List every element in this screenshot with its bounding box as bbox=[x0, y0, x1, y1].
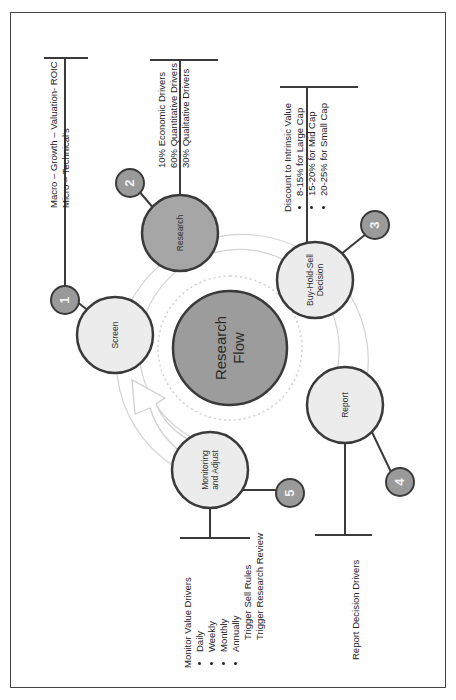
node-screen-label: Screen bbox=[95, 297, 135, 373]
monitoring-bullet: Daily bbox=[194, 533, 206, 652]
monitoring-trailing-1: Trigger Sell Rules bbox=[242, 533, 254, 668]
node-decision-label: Buy-Hold-Sell Decision bbox=[295, 242, 335, 318]
decision-bullet: 8-15% for Large Cap bbox=[294, 103, 306, 196]
research-line-2: 60% Quantitative Drivers bbox=[168, 63, 180, 168]
node-report-label: Report bbox=[325, 367, 365, 443]
annotation-research: 10% Economic Drivers 60% Quantitative Dr… bbox=[156, 63, 192, 168]
decision-bullets: 8-15% for Large Cap 15-20% for Mid Cap 2… bbox=[294, 103, 330, 212]
decision-title: Discount to Intrinsic Value bbox=[282, 103, 294, 212]
center-label-line1: Research bbox=[212, 316, 230, 380]
node-monitoring-label: Monitoring and Adjust bbox=[190, 432, 230, 508]
decision-bullet: 20-25% for Small Cap bbox=[318, 103, 330, 196]
monitoring-bullet: Monthly bbox=[218, 533, 230, 652]
annotation-monitoring: Monitor Value Drivers Daily Weekly Month… bbox=[182, 533, 266, 668]
monitoring-text-line2: and Adjust bbox=[210, 450, 220, 490]
annotation-screen-text: Macro – Growth – Valuation- ROIC Micro –… bbox=[48, 61, 72, 208]
monitoring-trailing-2: Trigger Research Review bbox=[254, 533, 266, 668]
decision-text-line2: Decision bbox=[315, 264, 325, 297]
research-flow-diagram: Research Flow Screen Research Buy-Hold-S… bbox=[10, 12, 448, 690]
monitoring-text-line1: Monitoring bbox=[200, 450, 210, 490]
node-research-label: Research bbox=[160, 195, 200, 271]
screen-line-2: Micro – Technical's bbox=[60, 61, 72, 208]
research-text: Research bbox=[175, 215, 185, 251]
monitoring-title: Monitor Value Drivers bbox=[182, 533, 194, 668]
badge-2-number: 2 bbox=[122, 173, 137, 193]
badge-1-number: 1 bbox=[57, 290, 72, 310]
research-line-1: 10% Economic Drivers bbox=[156, 63, 168, 168]
monitoring-bullets: Daily Weekly Monthly Annually bbox=[194, 533, 242, 668]
center-label-line2: Flow bbox=[230, 332, 248, 364]
decision-text-line1: Buy-Hold-Sell bbox=[305, 254, 315, 306]
monitoring-bullet: Annually bbox=[230, 533, 242, 652]
annotation-decision: Discount to Intrinsic Value 8-15% for La… bbox=[282, 103, 330, 212]
badge-5-number: 5 bbox=[282, 483, 297, 503]
center-label: Research Flow bbox=[193, 291, 267, 405]
decision-bullet: 15-20% for Mid Cap bbox=[306, 103, 318, 196]
badge-4-number: 4 bbox=[392, 472, 407, 492]
screen-line-1: Macro – Growth – Valuation- ROIC bbox=[48, 61, 60, 208]
badge-3-number: 3 bbox=[367, 215, 382, 235]
report-text: Report bbox=[340, 392, 350, 418]
monitoring-bullet: Weekly bbox=[206, 533, 218, 652]
research-line-3: 30% Qualitative Drivers bbox=[180, 63, 192, 168]
annotation-report: Report Decision Drivers bbox=[350, 560, 362, 660]
report-line-1: Report Decision Drivers bbox=[350, 560, 362, 660]
screen-text: Screen bbox=[110, 322, 120, 349]
